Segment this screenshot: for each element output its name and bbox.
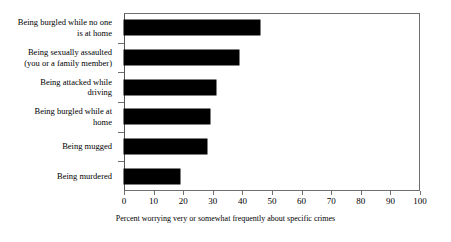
y-axis-tick bbox=[118, 132, 124, 133]
category-label-line: home bbox=[0, 117, 112, 128]
bar-slot bbox=[124, 132, 420, 162]
x-axis-tick bbox=[124, 191, 125, 195]
y-axis-tick bbox=[118, 72, 124, 73]
category-label: Being burgled while athome bbox=[0, 106, 112, 127]
category-label-line: driving bbox=[0, 87, 112, 98]
bar bbox=[124, 20, 260, 35]
x-axis-tick-label: 60 bbox=[287, 196, 317, 207]
bar bbox=[124, 139, 207, 154]
y-axis-tick bbox=[118, 161, 124, 162]
x-axis-tick bbox=[361, 191, 362, 195]
category-label-line: is at home bbox=[0, 28, 112, 39]
x-axis-tick-label: 90 bbox=[375, 196, 405, 207]
x-axis-tick-label: 0 bbox=[109, 196, 139, 207]
category-axis-labels: Being burgled while no oneis at homeBein… bbox=[0, 13, 118, 191]
category-label-line: Being burgled while no one bbox=[0, 17, 112, 28]
x-axis-tick-label: 100 bbox=[405, 196, 435, 207]
category-label-line: Being sexually assaulted bbox=[0, 47, 112, 58]
x-axis-title: Percent worrying very or somewhat freque… bbox=[0, 214, 451, 223]
bar-slot bbox=[124, 43, 420, 73]
x-axis-tick bbox=[272, 191, 273, 195]
bar bbox=[124, 109, 210, 124]
x-axis-tick bbox=[242, 191, 243, 195]
bar-chart: Being burgled while no oneis at homeBein… bbox=[0, 0, 451, 242]
category-label: Being murdered bbox=[0, 171, 112, 182]
category-label: Being attacked whiledriving bbox=[0, 77, 112, 98]
category-label-line: Being attacked while bbox=[0, 77, 112, 88]
bar-slot bbox=[124, 13, 420, 43]
category-label-line: Being burgled while at bbox=[0, 106, 112, 117]
category-label-line: Being mugged bbox=[0, 141, 112, 152]
y-axis-tick bbox=[118, 102, 124, 103]
x-axis-tick-label: 50 bbox=[257, 196, 287, 207]
x-axis-tick bbox=[154, 191, 155, 195]
x-axis-tick-label: 80 bbox=[346, 196, 376, 207]
x-axis-tick bbox=[183, 191, 184, 195]
y-axis-tick bbox=[118, 43, 124, 44]
category-label-line: (you or a family member) bbox=[0, 58, 112, 69]
x-axis-tick bbox=[390, 191, 391, 195]
x-axis-tick-label: 10 bbox=[139, 196, 169, 207]
x-axis-tick bbox=[331, 191, 332, 195]
bar-slot bbox=[124, 72, 420, 102]
x-axis-tick bbox=[302, 191, 303, 195]
x-axis-tick bbox=[420, 191, 421, 195]
category-label: Being sexually assaulted(you or a family… bbox=[0, 47, 112, 68]
category-label: Being mugged bbox=[0, 141, 112, 152]
x-axis-tick-label: 30 bbox=[198, 196, 228, 207]
bars-layer bbox=[124, 13, 420, 191]
bar bbox=[124, 50, 239, 65]
bar-slot bbox=[124, 161, 420, 191]
bar-slot bbox=[124, 102, 420, 132]
x-axis-tick-label: 20 bbox=[168, 196, 198, 207]
x-axis-tick-label: 40 bbox=[227, 196, 257, 207]
bar bbox=[124, 169, 180, 184]
category-label: Being burgled while no oneis at home bbox=[0, 17, 112, 38]
bar bbox=[124, 80, 216, 95]
x-axis-tick bbox=[213, 191, 214, 195]
x-axis-tick-label: 70 bbox=[316, 196, 346, 207]
category-label-line: Being murdered bbox=[0, 171, 112, 182]
